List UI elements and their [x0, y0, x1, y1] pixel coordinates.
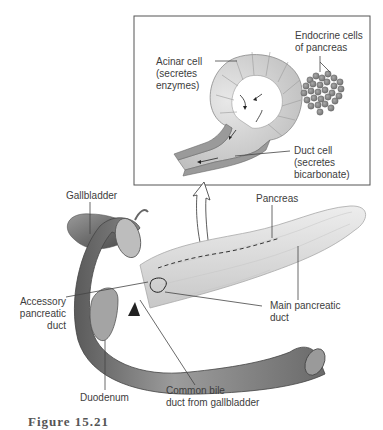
acinar-cell-label: Acinar cell (secretes enzymes) — [156, 56, 202, 92]
accessory-duct-label: Accessory pancreatic duct — [14, 296, 66, 332]
duodenum-label: Duodenum — [80, 392, 129, 404]
pancreas-shape — [140, 206, 366, 308]
figure-caption: Figure 15.21 — [28, 414, 109, 430]
main-duct-label: Main pancreatic duct — [270, 300, 341, 324]
common-bile-duct-label: Common bile duct from gallbladder — [166, 385, 259, 409]
duct-cell-label: Duct cell (secretes bicarbonate) — [294, 145, 350, 181]
pancreas-label: Pancreas — [256, 193, 298, 205]
gallbladder-label: Gallbladder — [66, 190, 117, 202]
endocrine-cells-label: Endocrine cells of pancreas — [295, 30, 363, 54]
